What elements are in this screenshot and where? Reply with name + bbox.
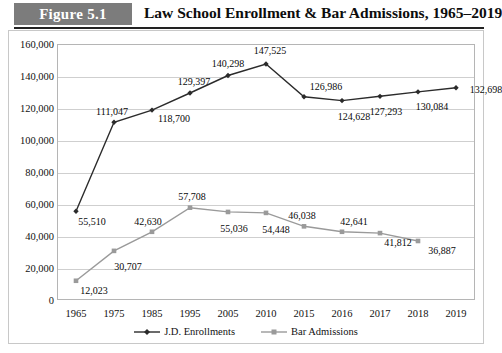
data-point-marker <box>339 98 344 103</box>
legend-label: J.D. Enrollments <box>164 326 235 337</box>
y-axis-tick-label: 80,000 <box>25 167 54 178</box>
data-point-marker <box>74 278 79 283</box>
square-marker <box>261 327 287 337</box>
data-point-label: 41,812 <box>384 237 412 248</box>
data-point-marker <box>73 208 78 213</box>
data-point-label: 57,708 <box>178 190 206 201</box>
data-point-label: 118,700 <box>158 113 190 124</box>
legend-label: Bar Admissions <box>291 326 358 337</box>
data-point-marker <box>187 90 192 95</box>
x-axis-tick-label: 2017 <box>370 308 391 319</box>
x-axis-tick-label: 1985 <box>142 308 163 319</box>
x-axis-tick-label: 2018 <box>408 308 429 319</box>
data-point-label: 12,023 <box>80 284 108 295</box>
y-axis-tick-label: 120,000 <box>20 103 54 114</box>
legend-item: J.D. Enrollments <box>134 326 235 337</box>
y-axis-tick-label: 60,000 <box>25 199 54 210</box>
data-point-marker <box>226 210 231 215</box>
data-point-marker <box>225 73 230 78</box>
data-point-label: 42,641 <box>340 215 368 226</box>
x-axis-tick-label: 1995 <box>180 308 201 319</box>
x-axis-tick-label: 2010 <box>256 308 277 319</box>
y-axis: 020,00040,00060,00080,000100,000120,0001… <box>8 44 54 302</box>
data-point-label: 127,293 <box>370 106 403 117</box>
y-axis-tick-label: 140,000 <box>20 71 54 82</box>
data-point-label: 36,887 <box>428 244 456 255</box>
data-point-label: 111,047 <box>96 106 128 117</box>
legend-item: Bar Admissions <box>261 326 358 337</box>
data-point-marker <box>302 224 307 229</box>
data-point-marker <box>378 231 383 236</box>
x-axis-tick-label: 1975 <box>104 308 125 319</box>
y-axis-tick-label: 160,000 <box>20 39 54 50</box>
x-axis-tick-label: 2019 <box>446 308 467 319</box>
data-point-marker <box>416 239 421 244</box>
data-point-marker <box>264 211 269 216</box>
data-point-marker <box>149 107 154 112</box>
x-axis-tick-label: 2016 <box>332 308 353 319</box>
data-point-marker <box>453 85 458 90</box>
y-axis-tick-label: 100,000 <box>20 135 54 146</box>
chart-area: 020,00040,00060,00080,000100,000120,0001… <box>8 30 484 344</box>
data-point-label: 54,448 <box>262 223 290 234</box>
figure-header: Figure 5.1 Law School Enrollment & Bar A… <box>0 0 492 30</box>
data-point-label: 30,707 <box>114 260 142 271</box>
data-point-marker <box>111 120 116 125</box>
data-point-label: 55,036 <box>220 222 248 233</box>
data-point-label: 147,525 <box>254 44 287 55</box>
chart-legend: J.D. EnrollmentsBar Admissions <box>8 326 484 337</box>
series-line <box>76 64 456 211</box>
y-axis-tick-label: 40,000 <box>25 231 54 242</box>
data-point-label: 132,698 <box>470 83 502 94</box>
data-point-label: 129,397 <box>178 75 211 86</box>
data-point-marker <box>150 229 155 234</box>
data-point-marker <box>377 94 382 99</box>
data-point-label: 130,084 <box>416 100 449 111</box>
data-point-marker <box>112 249 117 254</box>
data-point-label: 126,986 <box>310 80 343 91</box>
page-title: Law School Enrollment & Bar Admissions, … <box>144 4 502 22</box>
x-axis-tick-label: 2005 <box>218 308 239 319</box>
x-axis-tick-label: 2015 <box>294 308 315 319</box>
data-point-label: 46,038 <box>288 210 316 221</box>
data-point-label: 42,630 <box>134 215 162 226</box>
data-point-marker <box>415 89 420 94</box>
header-divider <box>14 27 484 29</box>
y-axis-tick-label: 0 <box>49 295 54 306</box>
y-axis-tick-label: 20,000 <box>25 263 54 274</box>
diamond-marker <box>134 327 160 337</box>
data-point-label: 124,628 <box>338 110 371 121</box>
x-axis-tick-label: 1965 <box>66 308 87 319</box>
data-point-marker <box>188 205 193 210</box>
data-point-label: 55,510 <box>78 216 106 227</box>
figure-number-badge: Figure 5.1 <box>14 3 132 25</box>
data-point-label: 140,298 <box>212 57 245 68</box>
data-point-marker <box>340 229 345 234</box>
